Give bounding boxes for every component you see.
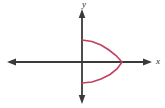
y-axis-arrow-up-icon [79, 9, 86, 18]
y-axis-label: y [82, 0, 86, 9]
parabola-figure: y x [0, 0, 165, 108]
x-axis-label: x [156, 57, 160, 66]
x-axis-group [7, 59, 152, 66]
y-axis-arrow-down-icon [79, 95, 86, 104]
y-axis-group [79, 9, 86, 104]
x-axis-arrow-left-icon [7, 59, 16, 66]
graph-canvas [0, 0, 165, 108]
x-axis-arrow-right-icon [143, 59, 152, 66]
